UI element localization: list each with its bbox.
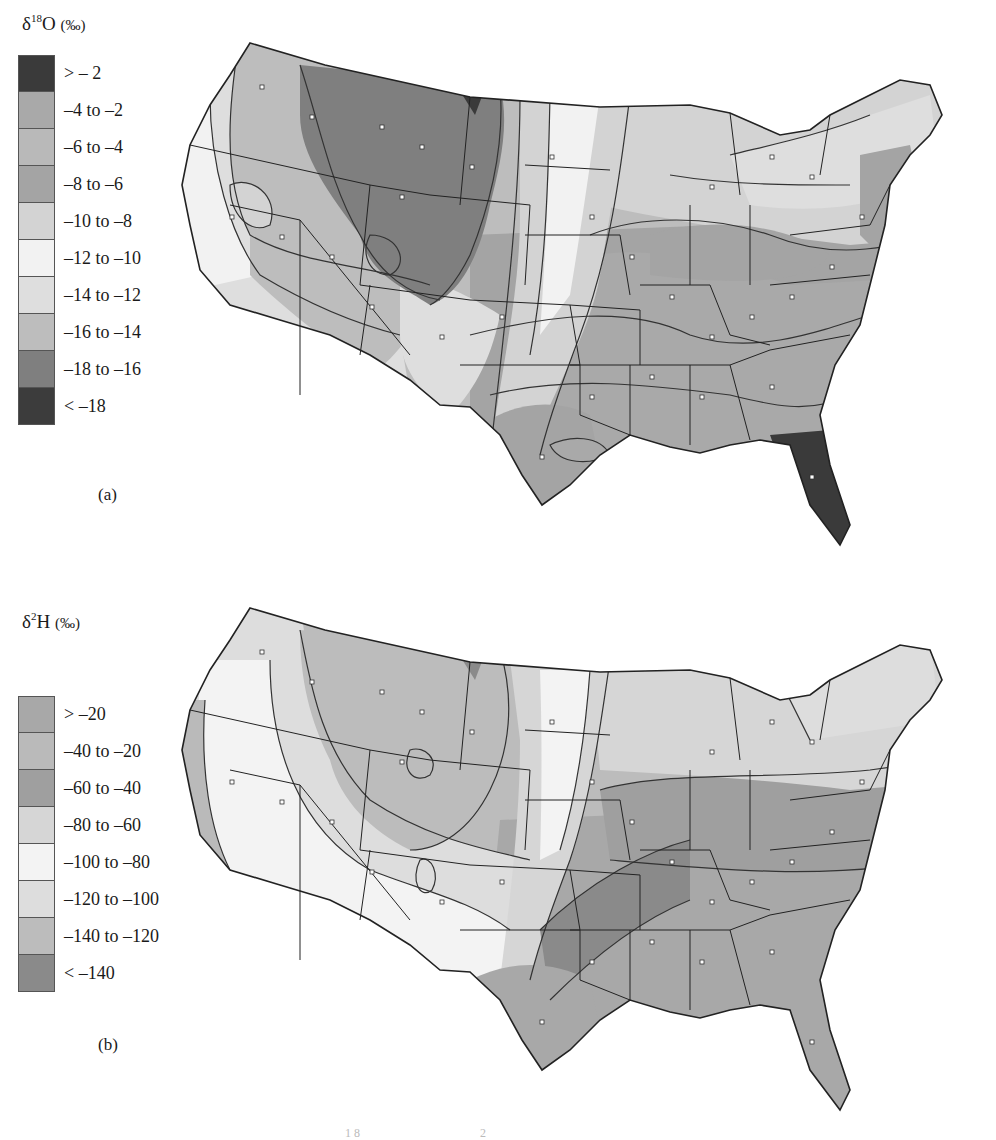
- legend-swatch: [18, 277, 55, 314]
- legend-label: > – 2: [64, 63, 101, 84]
- legend-swatch: [18, 388, 55, 425]
- panel-b-delta-2h-map: δ2H (‰) > –20–40 to –20–60 to –40–80 to …: [0, 560, 996, 1120]
- legend-swatch: [18, 129, 55, 166]
- panel-a-delta-18o-map: δ18O (‰) > – 2–4 to –2–6 to –4–8 to –6–1…: [0, 0, 996, 550]
- legend-swatch: [18, 770, 55, 807]
- legend-swatch: [18, 240, 55, 277]
- contour-fills-a: [170, 35, 980, 555]
- legend-label: –120 to –100: [64, 889, 159, 910]
- caption-sup-18: 18: [345, 1126, 363, 1140]
- panel-label-b: (b): [98, 1035, 118, 1055]
- us-map-delta-2h: [170, 600, 980, 1120]
- figure-caption-fragment: 18 2: [0, 1126, 996, 1140]
- legend-swatch: [18, 918, 55, 955]
- panel-label-a: (a): [98, 485, 117, 505]
- legend-label: –18 to –16: [64, 359, 141, 380]
- legend-label: –6 to –4: [64, 137, 123, 158]
- legend-label: > –20: [64, 704, 106, 725]
- caption-sup-2: 2: [480, 1126, 489, 1140]
- legend-label: –60 to –40: [64, 778, 141, 799]
- legend-label: –4 to –2: [64, 100, 123, 121]
- legend-label: –80 to –60: [64, 815, 141, 836]
- legend-swatch: [18, 351, 55, 388]
- legend-title-delta-2h: δ2H (‰): [22, 610, 80, 633]
- legend-label: < –18: [64, 396, 106, 417]
- legend-label: –12 to –10: [64, 248, 141, 269]
- legend-label: –10 to –8: [64, 211, 132, 232]
- legend-swatch: [18, 92, 55, 129]
- legend-swatch: [18, 881, 55, 918]
- legend-label: –16 to –14: [64, 322, 141, 343]
- legend-swatch: [18, 203, 55, 240]
- us-map-delta-18o: [170, 35, 980, 555]
- legend-swatch: [18, 696, 55, 733]
- legend-label: –14 to –12: [64, 285, 141, 306]
- legend-swatch: [18, 166, 55, 203]
- legend-swatch: [18, 314, 55, 351]
- legend-swatch: [18, 55, 55, 92]
- legend-swatch: [18, 807, 55, 844]
- legend-swatch: [18, 955, 55, 992]
- legend-swatch: [18, 844, 55, 881]
- legend-label: –100 to –80: [64, 852, 150, 873]
- legend-label: –40 to –20: [64, 741, 141, 762]
- legend-label: < –140: [64, 963, 115, 984]
- legend-title-delta-18o: δ18O (‰): [22, 12, 85, 35]
- legend-label: –8 to –6: [64, 174, 123, 195]
- legend-swatch: [18, 733, 55, 770]
- legend-label: –140 to –120: [64, 926, 159, 947]
- contour-fills-b: [170, 600, 980, 1120]
